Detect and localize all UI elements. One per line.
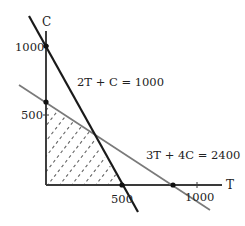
c-tick-label-1000: 1000 xyxy=(15,40,44,54)
constraint-label-3T4C: 3T + 4C = 2400 xyxy=(146,148,240,162)
c-tick-label-500: 500 xyxy=(21,108,43,122)
t-tick-label-500: 500 xyxy=(111,192,133,206)
point-c-600 xyxy=(43,99,48,104)
constraint-label-2TC: 2T + C = 1000 xyxy=(77,75,164,89)
point-t-500 xyxy=(119,182,124,187)
lp-diagram: C T 1000 500 500 1000 2T + C = 1000 3T +… xyxy=(0,0,245,226)
t-tick-label-1000: 1000 xyxy=(185,190,214,204)
t-axis-label: T xyxy=(226,178,234,192)
point-t-800 xyxy=(170,182,175,187)
c-axis-label: C xyxy=(42,15,51,29)
